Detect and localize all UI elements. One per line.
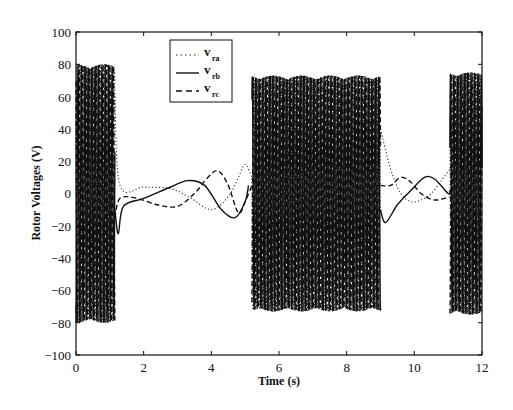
y-tick-label: −20 (51, 219, 71, 234)
legend-label-sub: ra (212, 54, 220, 63)
x-tick-label: 10 (408, 360, 421, 375)
series-v-rb-line (381, 176, 450, 222)
y-tick-label: −40 (51, 251, 71, 266)
y-axis-label: Rotor Voltages (V) (29, 145, 43, 240)
y-tick-label: 60 (58, 90, 71, 105)
x-tick-label: 2 (140, 360, 147, 375)
legend-label-main: v (204, 62, 211, 77)
series-v-ra-line (381, 129, 450, 202)
x-tick-label: 4 (208, 360, 215, 375)
x-tick-labels: 0 2 4 6 8 10 12 (73, 360, 489, 375)
x-axis-label: Time (s) (258, 374, 300, 388)
series-v-rb-line (115, 181, 249, 234)
x-tick-label: 0 (73, 360, 80, 375)
rotor-voltage-chart: 100 80 60 40 20 0 −20 −40 −60 −80 −100 0… (0, 0, 513, 410)
y-tick-label: −80 (51, 316, 71, 331)
legend-label-main: v (204, 44, 211, 59)
x-tick-label: 6 (276, 360, 283, 375)
legend-label-sub: rc (212, 90, 219, 99)
series-v-rc-line (115, 171, 252, 218)
y-tick-label: 0 (65, 186, 72, 201)
legend-box (170, 40, 232, 102)
y-tick-label: −100 (44, 348, 71, 363)
x-tick-label: 8 (343, 360, 350, 375)
y-tick-labels: 100 80 60 40 20 0 −20 −40 −60 −80 −100 (44, 25, 71, 363)
legend: v ra v rb v rc (170, 40, 232, 102)
y-tick-label: 100 (52, 25, 72, 40)
y-tick-label: −60 (51, 283, 71, 298)
x-tick-label: 12 (476, 360, 489, 375)
y-tick-label: 20 (58, 154, 71, 169)
series-v-rc-line (381, 177, 450, 200)
y-tick-label: 40 (58, 122, 71, 137)
plot-curves (76, 64, 482, 322)
legend-label-sub: rb (212, 72, 221, 81)
y-tick-label: 80 (58, 57, 71, 72)
legend-label-main: v (204, 80, 211, 95)
